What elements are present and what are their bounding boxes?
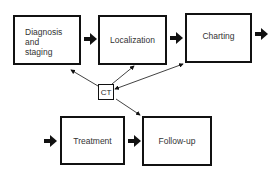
flow-arrow-localization-charting bbox=[170, 32, 183, 44]
node-diagnosis-line-1: Diagnosis bbox=[25, 27, 62, 37]
ct-link-charting bbox=[115, 64, 183, 89]
flow-arrow-charting-out bbox=[255, 28, 268, 40]
node-charting: Charting bbox=[185, 13, 252, 63]
flow-arrow-diagnosis-localization bbox=[84, 33, 97, 45]
node-followup: Follow-up bbox=[142, 116, 212, 166]
flow-arrow-in-treatment bbox=[44, 135, 57, 147]
node-diagnosis: Diagnosis and staging bbox=[13, 15, 81, 65]
ct-link-diagnosis bbox=[71, 70, 98, 86]
ct-link-localization bbox=[112, 66, 134, 84]
node-localization: Localization bbox=[98, 15, 167, 65]
node-diagnosis-line-2: and bbox=[25, 37, 62, 47]
node-treatment: Treatment bbox=[60, 116, 125, 165]
node-ct: CT bbox=[98, 84, 114, 100]
node-charting-label: Charting bbox=[202, 31, 234, 41]
flow-arrow-treatment-followup bbox=[128, 135, 141, 147]
node-localization-label: Localization bbox=[110, 35, 155, 45]
node-diagnosis-line-3: staging bbox=[25, 47, 62, 57]
node-followup-label: Follow-up bbox=[159, 136, 196, 146]
node-treatment-label: Treatment bbox=[73, 136, 111, 146]
node-ct-label: CT bbox=[101, 88, 112, 97]
ct-link-followup bbox=[116, 99, 140, 115]
